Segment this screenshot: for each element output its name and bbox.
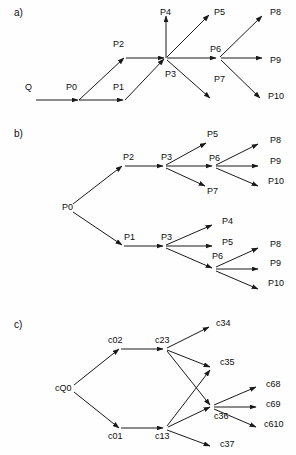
edge-P6-to-P8 — [216, 144, 258, 165]
edges-layer — [36, 15, 262, 446]
node-label-c-cQ0: cQ0 — [55, 383, 72, 393]
edge-P6-to-P10 — [221, 60, 260, 98]
node-label-a-P8: P8 — [270, 7, 281, 17]
edge-P1-to-P3 — [125, 59, 164, 100]
edge-P0-to-P2 — [73, 166, 122, 204]
panel-labels-layer: a)b)c) — [14, 7, 23, 330]
node-label-c-c35: c35 — [220, 357, 235, 367]
nodes-layer: QP0P1P2P3P4P5P6P7P8P9P10P0P2P3P5P6P7P8P9… — [25, 7, 284, 449]
edge-c36-to-c68 — [214, 387, 256, 405]
edge-P3-to-P4 — [166, 225, 212, 245]
node-label-c-c34: c34 — [216, 318, 231, 328]
node-label-b-P1: P1 — [124, 232, 135, 242]
node-label-a-P3: P3 — [165, 69, 176, 79]
node-label-c-c02: c02 — [108, 335, 123, 345]
edge-cQ0-to-c02 — [74, 349, 119, 385]
node-label-b-P0: P0 — [62, 202, 73, 212]
edge-P3-to-P5 — [167, 15, 209, 57]
edge-P0-to-P1 — [73, 212, 122, 245]
node-label-a-P5: P5 — [214, 7, 225, 17]
edge-cQ0-to-c01 — [74, 392, 119, 428]
node-label-a-P9: P9 — [270, 55, 281, 65]
node-label-c-c37: c37 — [220, 439, 235, 449]
node-label-a-P1: P1 — [113, 82, 124, 92]
edge-P6-to-P10 — [216, 168, 258, 186]
node-label-b-P6l: P6 — [212, 251, 223, 261]
edge-P6-to-P10 — [216, 271, 258, 289]
node-label-b-P10l: P10 — [268, 278, 284, 288]
node-label-b-P6u: P6 — [209, 153, 220, 163]
node-label-b-P10u: P10 — [268, 176, 284, 186]
node-label-b-P2: P2 — [123, 152, 134, 162]
node-label-b-P7u: P7 — [207, 186, 218, 196]
node-label-a-P7: P7 — [214, 74, 225, 84]
node-label-c-c01: c01 — [108, 431, 123, 441]
node-label-b-P5u: P5 — [207, 129, 218, 139]
node-label-c-c68: c68 — [266, 379, 281, 389]
graph-diagram-canvas: QP0P1P2P3P4P5P6P7P8P9P10P0P2P3P5P6P7P8P9… — [0, 0, 296, 455]
node-label-a-P4: P4 — [160, 7, 171, 17]
panel-label-panel-b: b) — [14, 128, 23, 139]
edge-c23-to-c34 — [167, 327, 209, 348]
node-label-b-P8l: P8 — [270, 239, 281, 249]
edge-P3-to-P7 — [166, 168, 205, 186]
node-label-a-P6: P6 — [210, 44, 221, 54]
node-label-b-P4l: P4 — [222, 216, 233, 226]
node-label-c-c13: c13 — [155, 431, 170, 441]
node-label-b-P8u: P8 — [270, 135, 281, 145]
node-label-a-P0: P0 — [66, 82, 77, 92]
node-label-c-c610: c610 — [264, 419, 284, 429]
node-label-c-c69: c69 — [266, 399, 281, 409]
node-label-a-P10: P10 — [268, 91, 284, 101]
node-label-b-P9l: P9 — [270, 258, 281, 268]
edge-P0-to-P2 — [79, 58, 124, 100]
node-label-c-c36: c36 — [214, 411, 229, 421]
figure-root: QP0P1P2P3P4P5P6P7P8P9P10P0P2P3P5P6P7P8P9… — [0, 0, 296, 455]
edge-c13-to-c37 — [167, 430, 210, 446]
node-label-b-P9u: P9 — [270, 156, 281, 166]
panel-label-panel-c: c) — [14, 319, 22, 330]
panel-label-panel-a: a) — [14, 7, 23, 18]
node-label-a-P2: P2 — [113, 39, 124, 49]
node-label-c-c23: c23 — [155, 335, 170, 345]
node-label-a-Q: Q — [25, 82, 32, 92]
node-label-b-P3u: P3 — [161, 152, 172, 162]
node-label-b-P5l: P5 — [222, 237, 233, 247]
edge-P3-to-P6 — [166, 248, 212, 268]
edge-P6-to-P8 — [220, 16, 262, 57]
node-label-b-P3l: P3 — [161, 232, 172, 242]
